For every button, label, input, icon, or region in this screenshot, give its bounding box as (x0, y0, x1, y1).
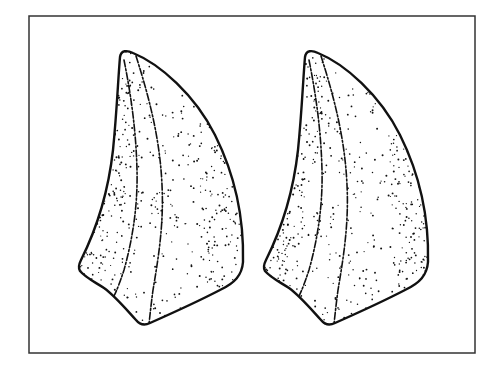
specimen-left (79, 51, 243, 325)
specimen-outline (264, 51, 428, 325)
illustration-figure (0, 0, 502, 382)
specimen-outline (79, 51, 243, 325)
specimen-right (264, 51, 428, 325)
